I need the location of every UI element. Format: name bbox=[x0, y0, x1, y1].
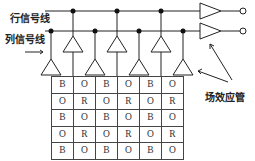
grid-cell: O bbox=[140, 126, 162, 143]
grid-cell: B bbox=[52, 77, 74, 94]
grid-cell: R bbox=[162, 93, 184, 110]
grid-cell: O bbox=[162, 110, 184, 127]
grid-cell: O bbox=[140, 93, 162, 110]
fet-label: 场效应管 bbox=[205, 93, 245, 103]
fet-pointer-arrow bbox=[198, 71, 228, 82]
junction-dot bbox=[115, 9, 120, 14]
grid-cell: B bbox=[140, 110, 162, 127]
grid-cell: B bbox=[96, 143, 118, 160]
grid-cell: O bbox=[118, 143, 140, 160]
grid-row: B O B O B O bbox=[52, 77, 184, 94]
column-output-terminal bbox=[240, 28, 246, 34]
grid-cell: R bbox=[74, 126, 96, 143]
grid-cell: O bbox=[52, 126, 74, 143]
grid-row: O R O R O R bbox=[52, 126, 184, 143]
grid-cell: O bbox=[52, 93, 74, 110]
grid-cell: B bbox=[52, 110, 74, 127]
grid-cell: O bbox=[162, 77, 184, 94]
grid-cell: O bbox=[74, 110, 96, 127]
fet-pointer-arrow bbox=[210, 44, 232, 80]
junction-dot bbox=[71, 9, 76, 14]
grid-cell: O bbox=[118, 77, 140, 94]
grid-cell: R bbox=[162, 126, 184, 143]
grid-cell: B bbox=[96, 77, 118, 94]
column-signal-line-label: 列信号线 bbox=[5, 35, 45, 45]
grid-cell: R bbox=[74, 93, 96, 110]
grid-cell: O bbox=[74, 77, 96, 94]
grid-cell: R bbox=[118, 93, 140, 110]
row-fet-group bbox=[63, 11, 171, 76]
grid-cell: O bbox=[162, 143, 184, 160]
junction-dot bbox=[137, 29, 142, 34]
junction-dot bbox=[49, 29, 54, 34]
grid-cell: O bbox=[118, 110, 140, 127]
junction-dot bbox=[93, 29, 98, 34]
grid-cell: B bbox=[140, 143, 162, 160]
column-output-buffer bbox=[200, 23, 221, 39]
grid-cell: B bbox=[140, 77, 162, 94]
row-output-buffer bbox=[200, 3, 221, 19]
row-output-terminal bbox=[240, 8, 246, 14]
junction-dot bbox=[181, 29, 186, 34]
row-signal-line-label: 行信号线 bbox=[10, 14, 50, 24]
grid-cell: O bbox=[96, 126, 118, 143]
pixel-grid: B O B O B O O R O R O R B O B O B O O R … bbox=[51, 76, 184, 160]
grid-row: O R O R O R bbox=[52, 93, 184, 110]
grid-row: B O B O B O bbox=[52, 143, 184, 160]
grid-cell: R bbox=[118, 126, 140, 143]
junction-dot bbox=[159, 9, 164, 14]
grid-cell: O bbox=[74, 143, 96, 160]
grid-row: B O B O B O bbox=[52, 110, 184, 127]
grid-cell: B bbox=[96, 110, 118, 127]
grid-cell: B bbox=[52, 143, 74, 160]
grid-cell: O bbox=[96, 93, 118, 110]
